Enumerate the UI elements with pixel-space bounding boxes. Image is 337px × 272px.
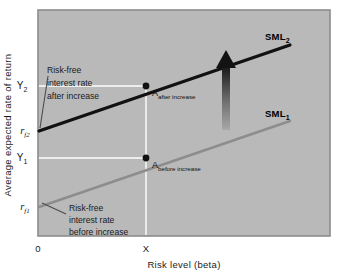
y-axis-title: Average expected rate of return — [2, 54, 13, 197]
sml-shift-chart: Average expected rate of return Risk lev… — [0, 0, 337, 272]
annotation-after-line-3: after increase — [47, 91, 99, 101]
origin-tick-label: 0 — [35, 243, 40, 254]
point-a-before-increase — [143, 155, 150, 162]
y-tick-label-lower: Y1 — [17, 152, 28, 165]
annotation-after-line-1: Risk-free — [47, 65, 82, 75]
annotation-before-line-1: Risk-free — [69, 203, 104, 213]
x-tick-label: X — [143, 243, 150, 254]
intercept-label-rf1: rf1 — [20, 201, 30, 215]
annotation-after-line-2: interest rate — [47, 78, 93, 88]
y-tick-label-upper: Y2 — [17, 80, 28, 93]
annotation-before-line-3: before increase — [69, 227, 128, 237]
x-axis-title: Risk level (beta) — [147, 259, 220, 270]
intercept-label-rf2: rf2 — [20, 125, 30, 139]
point-a-after-increase — [143, 83, 150, 90]
chart-figure: Average expected rate of return Risk lev… — [0, 0, 337, 272]
annotation-before-line-2: interest rate — [69, 215, 115, 225]
